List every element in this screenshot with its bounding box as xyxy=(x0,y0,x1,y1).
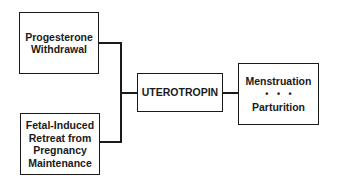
fetal-line-2: Retreat from xyxy=(29,132,91,145)
uterotropin-flow-diagram: Progesterone Withdrawal Fetal-Induced Re… xyxy=(0,0,339,182)
fetal-induced-retreat-box: Fetal-Induced Retreat from Pregnancy Mai… xyxy=(20,113,100,175)
connector-fetal-horizontal xyxy=(100,141,121,143)
fetal-line-3: Pregnancy xyxy=(33,144,87,157)
progesterone-withdrawal-box: Progesterone Withdrawal xyxy=(19,12,99,74)
progesterone-line-1: Progesterone xyxy=(25,31,93,44)
outcome-separator-dots: • • • xyxy=(262,87,294,101)
progesterone-line-2: Withdrawal xyxy=(31,43,87,56)
fetal-line-1: Fetal-Induced xyxy=(26,119,94,132)
outcome-menstruation: Menstruation xyxy=(246,75,312,88)
uterotropin-box: UTEROTROPIN xyxy=(137,73,223,112)
connector-progesterone-horizontal xyxy=(99,42,121,44)
connector-uterotropin-to-outcome xyxy=(223,92,238,94)
outcome-box: Menstruation • • • Parturition xyxy=(238,63,319,125)
outcome-parturition: Parturition xyxy=(252,101,305,114)
uterotropin-label: UTEROTROPIN xyxy=(142,86,218,99)
fetal-line-4: Maintenance xyxy=(28,157,92,170)
connector-merge-to-uterotropin xyxy=(120,92,137,94)
